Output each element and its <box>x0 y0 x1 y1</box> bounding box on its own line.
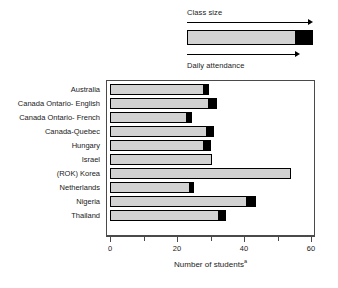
bar-thailand <box>110 210 226 221</box>
y-axis-label-rok-korea: (ROK) Korea <box>57 169 100 178</box>
bar-class-size-tip <box>246 197 254 206</box>
bar-row <box>110 196 256 207</box>
legend-label-daily-attendance: Daily attendance <box>187 61 244 70</box>
bar-row <box>110 182 194 193</box>
y-axis-label-hungary: Hungary <box>72 141 100 150</box>
bar-class-size-tip <box>203 85 208 94</box>
y-axis-label-canada-ontario-french: Canada Ontario- French <box>19 113 100 122</box>
bar-row <box>110 168 291 179</box>
bar-class-size-tip <box>206 127 213 136</box>
class-size-arrow-right-icon <box>187 19 313 26</box>
y-axis-labels: AustraliaCanada Ontario- EnglishCanada O… <box>0 80 104 236</box>
bar-australia <box>110 84 209 95</box>
bar-nigeria <box>110 196 256 207</box>
bar-class-size-tip <box>189 183 192 192</box>
bar-netherlands <box>110 182 194 193</box>
x-axis-tick <box>177 237 178 242</box>
x-axis-tick <box>211 237 212 241</box>
chart-figure: Class size Daily attendance AustraliaCan… <box>0 0 338 288</box>
y-axis-label-israel: Israel <box>82 155 100 164</box>
bar-row <box>110 154 212 165</box>
bar-row <box>110 126 214 137</box>
bar-rok-korea <box>110 168 291 179</box>
bar-row <box>110 140 211 151</box>
bar-class-size-tip <box>186 113 191 122</box>
bar-class-size-tip <box>218 211 225 220</box>
y-axis-label-canada-quebec: Canada-Quebec <box>45 127 100 136</box>
bar-canada-quebec <box>110 126 214 137</box>
y-axis-label-australia: Australia <box>71 85 100 94</box>
y-axis-label-canada-ontario-english: Canada Ontario- English <box>18 99 100 108</box>
x-axis-title-text: Number of students <box>174 260 244 269</box>
bar-hungary <box>110 140 211 151</box>
bar-class-size-tip <box>203 141 210 150</box>
bar-class-size-tip <box>208 99 216 108</box>
x-axis-title-footnote-marker: a <box>244 258 247 264</box>
bar-row <box>110 210 226 221</box>
bar-series-group <box>106 80 315 236</box>
x-axis-tick <box>244 237 245 242</box>
x-axis-tick <box>278 237 279 241</box>
x-axis <box>106 236 315 237</box>
bar-row <box>110 84 209 95</box>
bar-row <box>110 98 217 109</box>
legend-sample-bar-tip <box>295 31 312 44</box>
y-axis-label-nigeria: Nigeria <box>76 197 100 206</box>
y-axis-label-netherlands: Netherlands <box>60 183 100 192</box>
x-tick-label-20: 20 <box>165 244 189 253</box>
legend-label-class-size: Class size <box>187 8 222 17</box>
bar-canada-ontario-french <box>110 112 192 123</box>
x-axis-tick <box>144 237 145 241</box>
bar-row <box>110 112 192 123</box>
bar-canada-ontario-english <box>110 98 217 109</box>
x-tick-label-0: 0 <box>98 244 122 253</box>
x-axis-title: Number of studentsa <box>106 258 315 269</box>
daily-attendance-arrow-right-icon <box>187 51 300 58</box>
x-tick-label-60: 60 <box>299 244 323 253</box>
bar-israel <box>110 154 212 165</box>
y-axis-label-thailand: Thailand <box>71 211 100 220</box>
x-tick-label-40: 40 <box>232 244 256 253</box>
legend-sample-bar <box>187 30 313 45</box>
chart-legend: Class size Daily attendance <box>186 8 316 70</box>
x-axis-tick <box>110 237 111 242</box>
x-axis-tick <box>311 237 312 242</box>
